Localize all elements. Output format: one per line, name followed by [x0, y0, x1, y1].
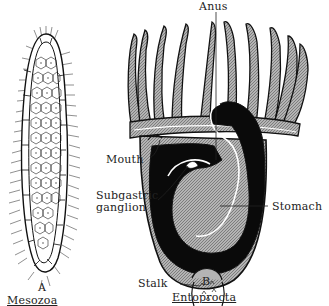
entoproct-organism [128, 12, 308, 306]
panel-b-caption: Entoprocta [172, 292, 236, 304]
panel-a-letter: A [38, 282, 46, 294]
panel-a-caption: Mesozoa [7, 295, 57, 306]
label-ganglion: ganglion [96, 202, 146, 214]
panel-b-letter: B [202, 276, 210, 288]
label-stomach: Stomach [272, 201, 322, 213]
diagram-figure: A Mesozoa Anus Mouth Subgastric ganglion… [0, 0, 329, 306]
label-stalk: Stalk [138, 278, 168, 290]
label-mouth: Mouth [106, 154, 143, 166]
diagram-drawing [0, 0, 329, 306]
mesozoa-organism [9, 26, 80, 290]
label-anus: Anus [199, 1, 228, 13]
